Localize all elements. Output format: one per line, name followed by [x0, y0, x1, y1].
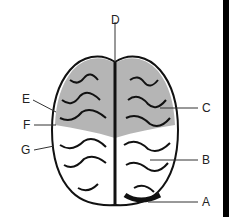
label-f: F [23, 119, 30, 131]
label-d: D [111, 14, 120, 26]
label-c: C [202, 102, 211, 114]
label-b: B [202, 154, 210, 166]
label-a: A [202, 196, 210, 208]
edge-bar [223, 0, 229, 217]
label-e: E [22, 93, 30, 105]
label-g: G [21, 144, 30, 156]
brain-illustration [0, 0, 229, 224]
